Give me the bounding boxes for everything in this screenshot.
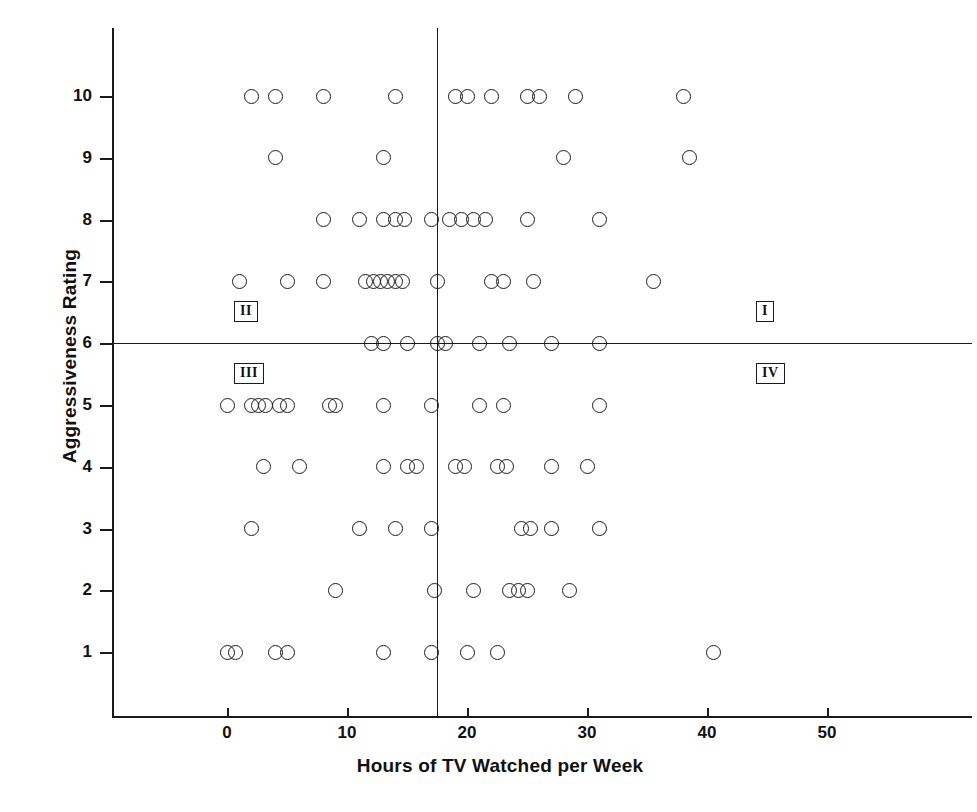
- x-axis-title: Hours of TV Watched per Week: [240, 755, 760, 777]
- y-tick-5: [100, 405, 112, 407]
- data-point: [316, 274, 331, 289]
- x-tick-label-30: 30: [562, 723, 612, 743]
- data-point: [244, 89, 259, 104]
- x-tick-50: [827, 708, 829, 717]
- horizontal-reference-line: [112, 343, 972, 344]
- data-point: [472, 336, 487, 351]
- quadrant-label-ii: II: [234, 301, 258, 322]
- data-point: [280, 645, 295, 660]
- x-tick-30: [587, 708, 589, 717]
- y-tick-label-10: 10: [52, 86, 92, 106]
- quadrant-label-iv: IV: [756, 363, 785, 384]
- data-point: [478, 212, 493, 227]
- y-tick-10: [100, 96, 112, 98]
- data-point: [352, 212, 367, 227]
- data-point: [460, 89, 475, 104]
- data-point: [526, 274, 541, 289]
- data-point: [424, 521, 439, 536]
- data-point: [592, 521, 607, 536]
- data-point: [523, 521, 538, 536]
- y-tick-label-9: 9: [52, 148, 92, 168]
- data-point: [457, 459, 472, 474]
- data-point: [532, 89, 547, 104]
- x-axis-spine: [112, 716, 972, 718]
- data-point: [499, 459, 514, 474]
- x-tick-0: [227, 708, 229, 717]
- data-point: [376, 645, 391, 660]
- x-tick-label-10: 10: [322, 723, 372, 743]
- data-point: [496, 274, 511, 289]
- data-point: [280, 398, 295, 413]
- data-point: [280, 274, 295, 289]
- data-point: [400, 336, 415, 351]
- data-point: [580, 459, 595, 474]
- data-point: [490, 645, 505, 660]
- data-point: [568, 89, 583, 104]
- data-point: [256, 459, 271, 474]
- data-point: [592, 336, 607, 351]
- data-point: [556, 150, 571, 165]
- data-point: [376, 459, 391, 474]
- data-point: [388, 89, 403, 104]
- x-tick-40: [707, 708, 709, 717]
- data-point: [316, 89, 331, 104]
- data-point: [520, 583, 535, 598]
- data-point: [427, 583, 442, 598]
- scatter-plot-figure: 12345678910 01020304050 IIIIIIIV Aggress…: [0, 0, 977, 812]
- data-point: [646, 274, 661, 289]
- data-point: [592, 398, 607, 413]
- x-tick-label-0: 0: [202, 723, 252, 743]
- data-point: [424, 645, 439, 660]
- data-point: [292, 459, 307, 474]
- data-point: [544, 521, 559, 536]
- data-point: [228, 645, 243, 660]
- data-point: [496, 398, 511, 413]
- y-tick-7: [100, 281, 112, 283]
- data-point: [328, 398, 343, 413]
- data-point: [328, 583, 343, 598]
- y-tick-6: [100, 343, 112, 345]
- data-point: [502, 336, 517, 351]
- data-point: [424, 398, 439, 413]
- data-point: [544, 459, 559, 474]
- y-tick-9: [100, 158, 112, 160]
- y-tick-8: [100, 220, 112, 222]
- data-point: [388, 521, 403, 536]
- data-point: [352, 521, 367, 536]
- data-point: [430, 274, 445, 289]
- quadrant-label-iii: III: [234, 363, 264, 384]
- data-point: [706, 645, 721, 660]
- data-point: [316, 212, 331, 227]
- data-point: [424, 212, 439, 227]
- data-point: [562, 583, 577, 598]
- data-point: [220, 398, 235, 413]
- data-point: [244, 521, 259, 536]
- x-tick-20: [467, 708, 469, 717]
- data-point: [376, 336, 391, 351]
- y-tick-label-2: 2: [52, 580, 92, 600]
- data-point: [438, 336, 453, 351]
- data-point: [472, 398, 487, 413]
- y-tick-label-1: 1: [52, 642, 92, 662]
- data-point: [409, 459, 424, 474]
- quadrant-label-i: I: [756, 301, 774, 322]
- y-tick-3: [100, 529, 112, 531]
- data-point: [232, 274, 247, 289]
- data-point: [376, 150, 391, 165]
- data-point: [395, 274, 410, 289]
- data-point: [682, 150, 697, 165]
- data-point: [460, 645, 475, 660]
- data-point: [466, 583, 481, 598]
- y-tick-4: [100, 467, 112, 469]
- x-tick-label-40: 40: [682, 723, 732, 743]
- y-tick-2: [100, 590, 112, 592]
- x-tick-label-20: 20: [442, 723, 492, 743]
- data-point: [520, 212, 535, 227]
- y-tick-label-3: 3: [52, 519, 92, 539]
- y-axis-title: Aggressiveness Rating: [59, 191, 81, 521]
- y-tick-1: [100, 652, 112, 654]
- data-point: [258, 398, 273, 413]
- x-tick-label-50: 50: [802, 723, 852, 743]
- data-point: [676, 89, 691, 104]
- data-point: [268, 150, 283, 165]
